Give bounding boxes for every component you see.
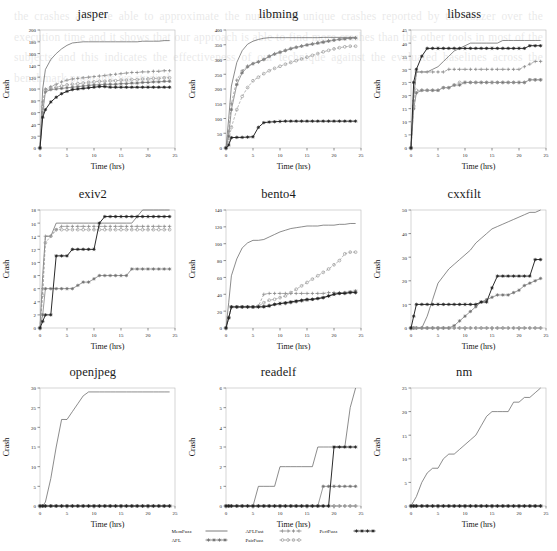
series-markers — [410, 44, 543, 150]
x-tick-label: 10 — [277, 333, 282, 338]
y-tick-label: 6 — [34, 287, 37, 292]
x-tick-label: 5 — [437, 333, 440, 338]
plot-frame — [40, 388, 175, 506]
series-line — [40, 41, 170, 148]
x-tick-label: 25 — [544, 153, 549, 158]
x-axis-label: Time (hrs) — [462, 520, 496, 529]
y-tick-label: 0 — [34, 504, 37, 509]
x-tick-label: 25 — [173, 333, 178, 338]
y-tick-label: 8 — [34, 274, 37, 279]
series-markers — [39, 228, 171, 329]
chart-svg: 010203040500510152025Time (hrs)Crash — [371, 202, 556, 360]
x-tick-label: 20 — [517, 333, 522, 338]
legend-svg: MemFuzzAFLAFLFastPairFuzzPerfFuzz — [171, 526, 386, 546]
x-tick-label: 15 — [119, 511, 124, 516]
series-line — [226, 252, 356, 328]
x-tick-label: 20 — [146, 333, 151, 338]
series-line — [40, 230, 170, 328]
y-tick-label: 15 — [402, 434, 407, 439]
panel-title: exiv2 — [0, 187, 186, 202]
series-markers — [224, 485, 357, 508]
series-line — [226, 37, 356, 148]
y-tick-label: 400 — [214, 28, 222, 33]
y-tick-label: 15 — [402, 107, 407, 112]
series-line — [226, 486, 356, 506]
x-tick-label: 10 — [277, 511, 282, 516]
series-line — [411, 46, 541, 148]
x-tick-label: 10 — [92, 153, 97, 158]
y-tick-label: 30 — [402, 256, 407, 261]
x-axis-label: Time (hrs) — [462, 162, 496, 171]
x-tick-label: 15 — [304, 511, 309, 516]
x-tick-label: 5 — [437, 153, 440, 158]
y-tick-label: 160 — [29, 52, 37, 57]
y-axis-label: Crash — [2, 438, 11, 457]
chart-svg: 0246810121416180510152025Time (hrs)Crash — [0, 202, 185, 360]
series-markers — [410, 258, 543, 330]
y-tick-label: 40 — [402, 42, 407, 47]
x-tick-label: 25 — [544, 511, 549, 516]
chart-svg: 0204060801001201401601802000510152025Tim… — [0, 22, 185, 180]
chart-svg: 0510152025303540450510152025Time (hrs)Cr… — [371, 22, 556, 180]
y-tick-label: 1 — [219, 485, 222, 490]
x-tick-label: 5 — [66, 153, 69, 158]
y-tick-label: 40 — [402, 232, 407, 237]
x-tick-label: 5 — [251, 511, 254, 516]
chart-svg: 01234560510152025Time (hrs)Crash — [186, 380, 371, 538]
plot-frame — [411, 388, 546, 506]
y-tick-label: 40 — [217, 293, 222, 298]
y-tick-label: 250 — [214, 73, 222, 78]
y-axis-label: Crash — [188, 438, 197, 457]
series-markers — [224, 119, 357, 149]
y-tick-label: 16 — [31, 222, 36, 227]
series-line — [411, 388, 541, 506]
y-tick-label: 10 — [402, 457, 407, 462]
x-tick-label: 5 — [251, 153, 254, 158]
y-tick-label: 180 — [29, 40, 37, 45]
legend-label: PerfFuzz — [319, 529, 338, 534]
y-axis-label: Crash — [188, 260, 197, 279]
y-tick-label: 35 — [402, 55, 407, 60]
x-axis-label: Time (hrs) — [91, 342, 125, 351]
panel-libsass: libsass 0510152025303540450510152025Time… — [371, 0, 557, 180]
x-tick-label: 20 — [517, 153, 522, 158]
series-markers — [410, 78, 543, 150]
y-tick-label: 20 — [402, 410, 407, 415]
plot-area: 05101520250510152025Time (hrs)Crash — [371, 380, 556, 542]
series-line — [40, 87, 170, 148]
series-markers — [224, 36, 357, 149]
series-line — [40, 269, 170, 328]
series-markers — [224, 45, 356, 150]
x-tick-label: 0 — [39, 333, 42, 338]
x-tick-label: 20 — [146, 511, 151, 516]
y-tick-label: 2 — [219, 465, 222, 470]
y-tick-label: 40 — [31, 123, 36, 128]
x-tick-label: 0 — [410, 153, 413, 158]
legend-label: MemFuzz — [171, 529, 192, 534]
x-tick-label: 20 — [331, 511, 336, 516]
y-tick-label: 20 — [31, 426, 36, 431]
y-tick-label: 350 — [214, 43, 222, 48]
x-axis-label: Time (hrs) — [91, 162, 125, 171]
series-markers — [224, 289, 357, 329]
y-tick-label: 0 — [34, 326, 37, 331]
y-tick-label: 20 — [402, 94, 407, 99]
y-tick-label: 140 — [29, 64, 37, 69]
y-tick-label: 30 — [31, 386, 36, 391]
panel-jasper: jasper 020406080100120140160180200051015… — [0, 0, 186, 180]
x-tick-label: 15 — [490, 333, 495, 338]
y-tick-label: 5 — [405, 481, 408, 486]
y-axis-label: Crash — [188, 80, 197, 99]
y-tick-label: 200 — [214, 87, 222, 92]
panel-title: bento4 — [186, 187, 372, 202]
panel-bento4: bento4 0204060801001201400510152025Time … — [186, 180, 372, 358]
x-tick-label: 10 — [463, 153, 468, 158]
y-tick-label: 25 — [402, 386, 407, 391]
y-tick-label: 10 — [31, 465, 36, 470]
panel-readelf: readelf 01234560510152025Time (hrs)Crash — [186, 358, 372, 530]
x-tick-label: 0 — [224, 153, 227, 158]
x-tick-label: 15 — [119, 153, 124, 158]
plot-area: 0510152025303540450510152025Time (hrs)Cr… — [371, 22, 556, 184]
legend-label: PairFuzz — [245, 538, 264, 543]
y-tick-label: 100 — [214, 117, 222, 122]
